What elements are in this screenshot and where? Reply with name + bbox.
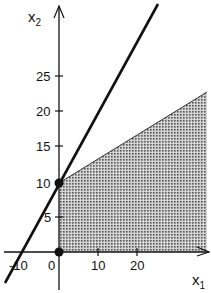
y-tick-25: 25: [36, 69, 50, 84]
y-axis-label: x2: [28, 8, 42, 28]
vertex-point-origin: [55, 248, 64, 257]
x-tick-20: 20: [130, 258, 144, 273]
lp-diagram: 5 10 15 20 25 -10 0 10 20 x2 x1: [0, 0, 211, 293]
x-axis-label: x1: [192, 271, 206, 291]
y-tick-15: 15: [36, 139, 50, 154]
y-tick-20: 20: [36, 104, 50, 119]
x-tick-0: 0: [48, 258, 55, 273]
feasible-region: [59, 92, 207, 252]
vertex-point-0-10: [55, 179, 64, 188]
x-tick-10: 10: [91, 258, 105, 273]
y-tick-10: 10: [36, 176, 50, 191]
